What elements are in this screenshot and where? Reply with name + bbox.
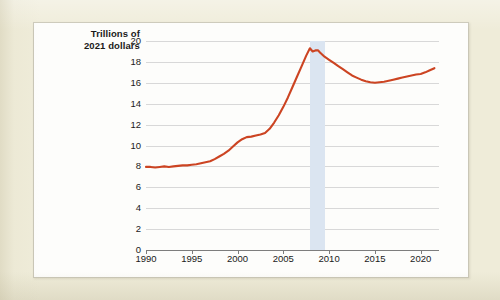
x-tick-label: 2005 [273,254,294,264]
y-tick-label: 8 [136,162,141,172]
x-tick-label: 1990 [135,254,156,264]
series-polyline [146,48,434,167]
y-tick-label: 4 [136,203,141,213]
y-tick-label: 14 [130,99,141,109]
x-tick-label: 2010 [319,254,340,264]
x-tick-label: 2020 [410,254,431,264]
plot-area: 02468101214161820 1990199520002005201020… [146,41,439,250]
y-axis-title: Trillions of 2021 dollars [62,28,140,52]
y-axis-title-line-1: Trillions of [62,28,140,40]
x-tick-label: 2000 [227,254,248,264]
y-tick-label: 16 [130,78,141,88]
line-series [146,41,439,250]
y-tick-label: 12 [130,120,141,130]
y-tick-label: 2 [136,224,141,234]
x-tick-label: 2015 [364,254,385,264]
y-tick-label: 10 [130,141,141,151]
figure-card: Trillions of 2021 dollars 02468101214161… [33,22,469,278]
y-axis-title-line-2: 2021 dollars [62,40,140,52]
gridline-y-0: 0 [146,250,439,251]
scanned-page: Trillions of 2021 dollars 02468101214161… [0,0,500,300]
x-tick-label: 1995 [181,254,202,264]
y-tick-label: 20 [130,36,141,46]
y-tick-label: 18 [130,57,141,67]
y-tick-label: 6 [136,183,141,193]
